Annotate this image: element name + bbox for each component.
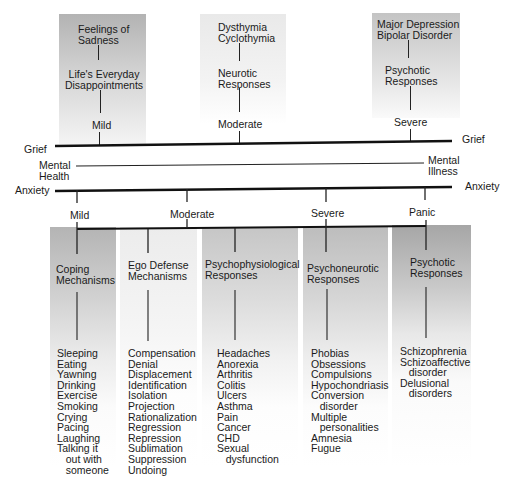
items-ego-defense: Compensation Denial Displacement Identif… <box>128 348 197 475</box>
items-psychotic: Schizophrenia Schizoaffective disorder D… <box>400 346 470 399</box>
grief-label-left: Grief <box>24 144 47 155</box>
items-coping: Sleeping Eating Yawning Drinking Exercis… <box>57 348 109 475</box>
category-title-psychoneurotic: Psychoneurotic Responses <box>307 263 379 285</box>
anxiety-label-left: Anxiety <box>15 185 49 196</box>
anxiety-level-moderate: Moderate <box>170 209 214 220</box>
category-title-coping: Coping Mechanisms <box>56 264 115 286</box>
grief-label-right: Grief <box>462 134 485 145</box>
items-psychoneurotic: Phobias Obsessions Compulsions Hypochond… <box>311 348 389 454</box>
anxiety-level-severe: Severe <box>311 208 344 219</box>
anxiety-level-panic: Panic <box>409 207 435 218</box>
anxiety-level-mild: Mild <box>70 210 89 221</box>
anxiety-label-right: Anxiety <box>465 181 499 192</box>
mental-illness-label: Mental Illness <box>428 155 460 177</box>
category-title-psychotic: Psychotic Responses <box>410 257 463 279</box>
mental-health-label: Mental Health <box>39 160 71 182</box>
category-title-ego-defense: Ego Defense Mechanisms <box>128 260 189 282</box>
category-title-psychophysiological: Psychophysiological Responses <box>205 259 300 281</box>
items-psychophysiological: Headaches Anorexia Arthritis Colitis Ulc… <box>217 348 279 465</box>
